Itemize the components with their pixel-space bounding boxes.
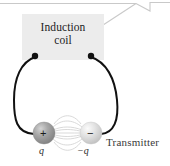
induction-coil-label: Induction coil xyxy=(22,21,104,46)
induction-coil-label-line2: coil xyxy=(22,34,104,47)
induction-coil-transmitter-figure: Induction coil xyxy=(0,0,170,166)
connecting-wires xyxy=(14,57,117,134)
wire-right xyxy=(91,57,117,134)
coil-terminal-left xyxy=(32,53,38,59)
coil-terminal-right xyxy=(88,53,94,59)
negative-charge-label: −q xyxy=(77,145,89,156)
negative-charge-sphere xyxy=(80,122,102,144)
transmitter-label: Transmitter xyxy=(106,136,159,148)
positive-charge-sphere xyxy=(33,122,55,144)
wire-left xyxy=(14,57,35,134)
induction-coil-label-line1: Induction xyxy=(22,21,104,34)
positive-charge-label: q xyxy=(39,145,44,156)
